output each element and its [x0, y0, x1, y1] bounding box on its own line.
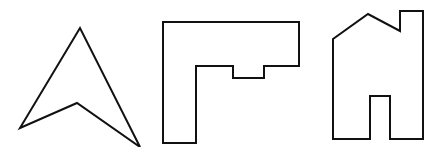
house-shape — [333, 11, 423, 139]
l-shape — [163, 22, 299, 143]
shapes-figure — [0, 0, 440, 147]
arrowhead-shape — [20, 28, 140, 147]
